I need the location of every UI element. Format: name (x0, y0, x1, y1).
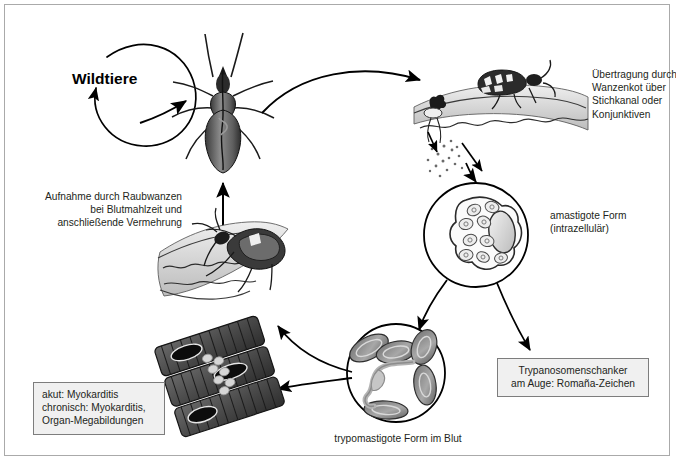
arrow-bug-to-skin (262, 71, 420, 113)
cardiac-muscle-fibers-icon (154, 315, 286, 438)
arrow-blood-to-cardiac (278, 378, 352, 389)
bug-on-skin-with-feces-icon (414, 60, 588, 177)
box-akut-chronisch-myokarditis: akut: Myokarditis chronisch: Myokarditis… (33, 382, 165, 435)
label-aufnahme-durch-raubwanzen: Aufnahme durch Raubwanzen bei Blutmahlze… (22, 190, 182, 230)
arrow-amastigote-to-chancre (497, 283, 530, 350)
diagram-canvas: Wildtiere Aufnahme durch Raubwanzen bei … (0, 0, 676, 462)
label-uebertragung-durch-wanzenkot: Übertragung durch Wanzenkot über Stichka… (592, 68, 676, 121)
triatomine-bug-dorsal-icon (172, 33, 274, 173)
blood-with-trypomastigote-icon (345, 324, 445, 422)
infected-host-cell-with-amastigotes-icon (424, 183, 528, 287)
arrow-skin-to-amastigote (466, 163, 476, 182)
wildlife-cycle-arrow-icon (95, 44, 196, 146)
arrow-amastigote-to-blood (419, 280, 447, 330)
box-trypanosomenschanker: Trypanosomenschanker am Auge: Romaña-Zei… (497, 358, 649, 397)
label-amastigote-form: amastigote Form (intrazellulär) (550, 209, 670, 235)
label-trypomastigote-form: trypomastigote Form im Blut (310, 432, 486, 445)
label-wildtiere: Wildtiere (72, 72, 180, 85)
arrow-wildlife-to-bug (140, 101, 186, 123)
arrow-blood-to-bug-feeding (278, 326, 352, 372)
